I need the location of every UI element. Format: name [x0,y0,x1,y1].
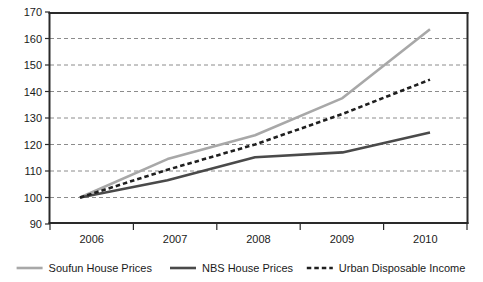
y-axis-label-120: 120 [24,139,42,151]
chart-svg: 17016015014013012011010090 2006200720082… [0,0,483,282]
y-axis-label-150: 150 [24,59,42,71]
y-axis-labels-group: 17016015014013012011010090 [24,6,42,230]
legend-label-2: Urban Disposable Income [339,262,466,274]
x-axis-label-2008: 2008 [246,233,270,245]
y-axis-label-140: 140 [24,86,42,98]
x-axis-label-2010: 2010 [413,233,437,245]
chart-legend: Soufun House PricesNBS House PricesUrban… [17,262,466,274]
y-axis-label-90: 90 [30,218,42,230]
y-axis-label-110: 110 [24,165,42,177]
legend-label-1: NBS House Prices [202,262,294,274]
chart-background [0,0,483,282]
line-chart: 17016015014013012011010090 2006200720082… [0,0,483,282]
y-axis-label-100: 100 [24,192,42,204]
y-axis-label-130: 130 [24,112,42,124]
x-axis-label-2009: 2009 [330,233,354,245]
y-axis-label-170: 170 [24,6,42,18]
x-axis-label-2007: 2007 [163,233,187,245]
legend-label-0: Soufun House Prices [49,262,153,274]
x-axis-label-2006: 2006 [79,233,103,245]
y-axis-label-160: 160 [24,33,42,45]
